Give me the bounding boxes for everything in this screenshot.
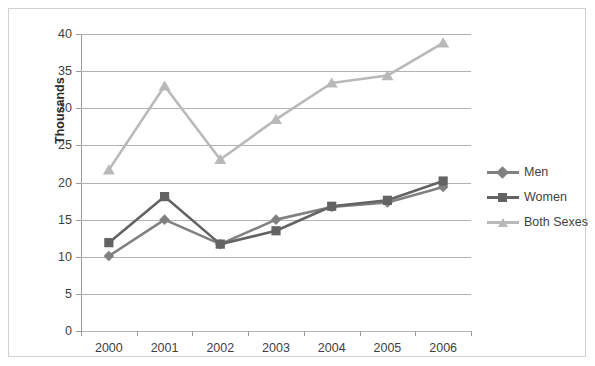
x-tick-mark <box>137 331 138 336</box>
x-tick-mark <box>192 331 193 336</box>
x-tick-label: 2002 <box>206 341 234 355</box>
x-tick-label: 2004 <box>318 341 346 355</box>
y-tick-label: 30 <box>58 101 72 115</box>
legend-item-men[interactable]: Men <box>487 159 588 184</box>
data-point-marker <box>271 214 282 225</box>
y-tick-label: 35 <box>58 64 72 78</box>
data-point-marker <box>437 37 449 47</box>
x-tick-mark <box>81 331 82 336</box>
y-tick-label: 40 <box>58 27 72 41</box>
data-point-marker <box>104 238 113 247</box>
chart-legend: MenWomenBoth Sexes <box>487 159 588 234</box>
y-tick-label: 20 <box>58 176 72 190</box>
x-tick-label: 2001 <box>151 341 179 355</box>
legend-label: Women <box>524 190 567 204</box>
y-tick-label: 25 <box>58 138 72 152</box>
y-tick-label: 10 <box>58 250 72 264</box>
x-tick-label: 2000 <box>95 341 123 355</box>
x-tick-mark <box>304 331 305 336</box>
data-point-marker <box>383 196 392 205</box>
x-tick-label: 2006 <box>429 341 457 355</box>
data-point-marker <box>271 226 280 235</box>
legend-marker-icon <box>487 215 519 229</box>
legend-item-women[interactable]: Women <box>487 184 588 209</box>
series-line <box>109 43 443 170</box>
legend-marker-icon <box>487 165 519 179</box>
legend-label: Both Sexes <box>524 215 588 229</box>
data-point-marker <box>439 176 448 185</box>
plot-area: 0510152025303540 20002001200220032004200… <box>81 34 471 331</box>
x-tick-label: 2005 <box>374 341 402 355</box>
legend-label: Men <box>524 165 548 179</box>
y-tick-label: 15 <box>58 213 72 227</box>
data-point-marker <box>327 202 336 211</box>
chart-container: Thousands 0510152025303540 2000200120022… <box>8 8 586 357</box>
data-point-marker <box>216 240 225 249</box>
x-tick-label: 2003 <box>262 341 290 355</box>
legend-item-both-sexes[interactable]: Both Sexes <box>487 209 588 234</box>
x-tick-mark <box>360 331 361 336</box>
data-point-marker <box>159 80 171 90</box>
series-plot <box>81 34 471 331</box>
gridline <box>81 331 471 332</box>
x-tick-mark <box>248 331 249 336</box>
x-tick-mark <box>415 331 416 336</box>
y-tick-label: 0 <box>65 324 72 338</box>
x-tick-mark <box>471 331 472 336</box>
legend-marker-icon <box>487 190 519 204</box>
data-point-marker <box>160 192 169 201</box>
y-tick-label: 5 <box>65 287 72 301</box>
